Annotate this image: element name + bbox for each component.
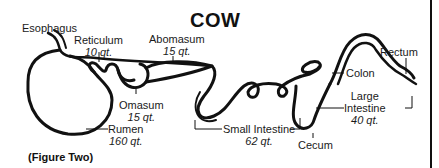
label-esophagus: Esophagus: [22, 22, 77, 34]
label-abomasum: Abomasum 15 qt.: [149, 33, 205, 57]
rumen-name: Rumen: [108, 123, 143, 135]
omasum-name: Omasum: [119, 99, 164, 111]
reticulum-name: Reticulum: [74, 34, 123, 46]
label-large-intestine: Large Intestine 40 qt.: [344, 90, 386, 126]
abomasum-name: Abomasum: [149, 33, 205, 45]
label-cecum: Cecum: [298, 139, 333, 151]
label-reticulum: Reticulum 10 qt.: [74, 34, 123, 58]
small-intestine-shape: [198, 62, 320, 118]
rumen-qty: 160 qt.: [108, 135, 143, 147]
label-rectum: Rectum: [380, 46, 418, 58]
label-small-intestine: Small Intestine 62 qt.: [223, 123, 295, 147]
label-omasum: Omasum 15 qt.: [119, 99, 164, 123]
large-intestine-name-2: Intestine: [344, 102, 386, 114]
small-intestine-name: Small Intestine: [223, 123, 295, 135]
rumen-shape: [28, 50, 112, 134]
omasum-qty: 15 qt.: [119, 111, 164, 123]
label-colon: Colon: [346, 67, 375, 79]
reticulum-qty: 10 qt.: [74, 46, 123, 58]
omasum-shape: [118, 64, 148, 88]
reticulum-shape: [90, 63, 134, 81]
small-intestine-qty: 62 qt.: [223, 135, 295, 147]
large-intestine-qty: 40 qt.: [344, 114, 386, 126]
label-rumen: Rumen 160 qt.: [108, 123, 143, 147]
large-intestine-name-1: Large: [344, 90, 386, 102]
right-border-divider: [430, 0, 432, 168]
figure-caption: (Figure Two): [28, 151, 93, 163]
abomasum-qty: 15 qt.: [149, 45, 205, 57]
cecum-shape: [293, 84, 330, 128]
